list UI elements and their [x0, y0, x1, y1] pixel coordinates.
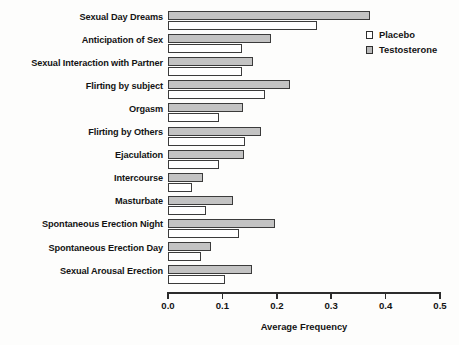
bar-testosterone [168, 265, 252, 274]
bar-testosterone [168, 173, 203, 182]
x-axis-tick-label: 0.2 [257, 300, 297, 311]
x-axis-tick [276, 292, 278, 299]
filled-square-icon [366, 46, 373, 54]
bar-placebo [168, 206, 206, 215]
x-axis-tick-label: 0.4 [366, 300, 406, 311]
category-label: Orgasm [0, 104, 163, 114]
bar-testosterone [168, 34, 271, 43]
legend-item-label: Testosterone [379, 44, 437, 55]
bar-testosterone [168, 57, 253, 66]
x-axis-tick-label: 0.3 [311, 300, 351, 311]
category-label: Sexual Day Dreams [0, 12, 163, 22]
category-label: Anticipation of Sex [0, 35, 163, 45]
legend: Placebo Testosterone [366, 28, 437, 58]
x-axis-tick [439, 292, 441, 299]
open-square-icon [366, 31, 373, 39]
x-axis-tick [222, 292, 224, 299]
bar-testosterone [168, 127, 261, 136]
category-label: Sexual Interaction with Partner [0, 58, 163, 68]
bar-testosterone [168, 196, 233, 205]
x-axis-line [168, 292, 440, 294]
x-axis-tick [385, 292, 387, 299]
x-axis-tick-label: 0.0 [148, 300, 188, 311]
legend-item-testosterone[interactable]: Testosterone [366, 43, 437, 56]
bar-testosterone [168, 103, 243, 112]
x-axis-title: Average Frequency [168, 321, 440, 332]
bar-placebo [168, 90, 265, 99]
category-label: Masturbate [0, 196, 163, 206]
bar-chart: Sexual Day DreamsAnticipation of SexSexu… [0, 0, 459, 345]
x-axis-tick-label: 0.5 [420, 300, 459, 311]
x-axis-tick-label: 0.1 [202, 300, 242, 311]
category-axis-labels: Sexual Day DreamsAnticipation of SexSexu… [0, 0, 168, 290]
bar-testosterone [168, 242, 211, 251]
category-label: Spontaneous Erection Day [0, 243, 163, 253]
category-label: Ejaculation [0, 150, 163, 160]
bar-placebo [168, 137, 245, 146]
bar-testosterone [168, 11, 370, 20]
category-label: Flirting by Others [0, 127, 163, 137]
x-axis-tick [330, 292, 332, 299]
x-axis-tick [167, 292, 169, 299]
bar-testosterone [168, 150, 244, 159]
bar-placebo [168, 160, 219, 169]
category-label: Sexual Arousal Erection [0, 266, 163, 276]
bar-placebo [168, 229, 239, 238]
legend-item-placebo[interactable]: Placebo [366, 28, 437, 41]
bar-placebo [168, 67, 242, 76]
category-label: Flirting by subject [0, 81, 163, 91]
bar-placebo [168, 252, 201, 261]
category-label: Spontaneous Erection Night [0, 219, 163, 229]
bar-placebo [168, 21, 317, 30]
bar-placebo [168, 275, 225, 284]
bar-placebo [168, 183, 192, 192]
bar-testosterone [168, 219, 275, 228]
bar-placebo [168, 113, 219, 122]
bar-testosterone [168, 80, 290, 89]
category-label: Intercourse [0, 173, 163, 183]
bar-placebo [168, 44, 242, 53]
legend-item-label: Placebo [379, 29, 415, 40]
